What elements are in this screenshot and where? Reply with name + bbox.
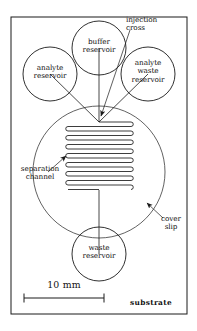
scale-bar-label: 10 mm (34, 281, 94, 289)
substrate-label: substrate (123, 299, 179, 307)
cover-slip-label: cover slip (152, 215, 190, 232)
scale-bar (24, 294, 104, 303)
separation-channel-label: separation channel (6, 165, 74, 182)
buffer-reservoir-label: buffer reservoir (69, 38, 129, 55)
separation-channel-serpentine (66, 122, 134, 190)
analyte-reservoir-label: analyte reservoir (20, 64, 80, 81)
waste-reservoir-label: waste reservoir (69, 244, 129, 261)
microfluidic-chip-diagram: analyte reservoir buffer reservoir analy… (0, 0, 197, 331)
analyte-waste-reservoir-label: analyte waste reservoir (118, 59, 178, 84)
injection-cross-label: injection cross (126, 16, 192, 33)
